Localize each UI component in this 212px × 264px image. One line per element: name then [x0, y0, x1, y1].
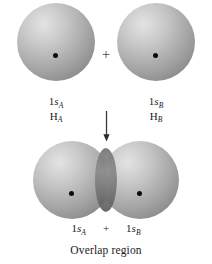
atom-label-a: HA	[16, 110, 96, 125]
orbital-label-a: 1sA	[16, 95, 96, 110]
label-group-atom-a: 1sA HA	[16, 95, 96, 124]
orbital-label-b: 1sB	[116, 95, 196, 110]
orbital-label-b-bottom: 1sB	[126, 222, 140, 234]
nucleus-dot-a-bottom	[69, 191, 74, 196]
label-group-atom-b: 1sB HB	[116, 95, 196, 124]
plus-operator-bottom: +	[103, 222, 109, 234]
label-group-bottom: 1sA+1sB	[0, 222, 212, 236]
plus-operator-top: +	[99, 47, 113, 61]
orbital-sphere-a-top	[17, 3, 95, 81]
downward-arrow-icon	[103, 111, 110, 142]
orbital-overlap-diagram: + 1sA HA 1sB HB 1sA+1sB Overlap region	[0, 0, 212, 264]
nucleus-dot-b-top	[153, 53, 158, 58]
atom-label-b: HB	[116, 110, 196, 125]
nucleus-dot-a-top	[53, 53, 58, 58]
orbital-sphere-b-top	[117, 3, 195, 81]
nucleus-dot-b-bottom	[137, 191, 142, 196]
figure-caption: Overlap region	[0, 243, 212, 257]
orbital-label-a-bottom: 1sA	[72, 222, 86, 234]
overlap-region-shading	[95, 148, 117, 212]
